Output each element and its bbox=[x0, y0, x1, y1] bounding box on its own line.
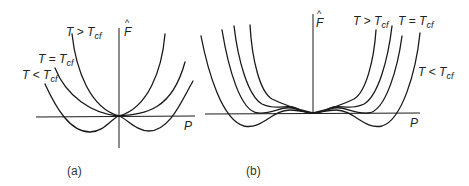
panel-a-plot bbox=[36, 28, 195, 148]
panel-b-caption: (b) bbox=[246, 164, 261, 178]
panel-b-plot bbox=[201, 14, 420, 127]
panel-a-label-t-below: T < Tcf bbox=[22, 69, 57, 81]
panel-a-curve-t-equal bbox=[55, 62, 185, 116]
panel-a-label-t-equal: T = Tcf bbox=[38, 53, 73, 65]
panel-b-label-t-below: T < Tcf bbox=[418, 66, 453, 78]
panel-b-p-axis-label: P bbox=[410, 117, 418, 129]
panel-a-label-t-above: T > Tcf bbox=[66, 26, 101, 38]
panel-a-f-axis-label: F bbox=[124, 26, 131, 38]
panel-a-p-axis-label: P bbox=[184, 120, 192, 132]
panel-b-f-axis-label: F bbox=[316, 17, 323, 29]
panel-b-label-t-equal: T = Tcf bbox=[398, 15, 433, 27]
panel-a-caption: (a) bbox=[67, 164, 82, 178]
panel-b-label-t-above: T > Tcf bbox=[353, 15, 388, 27]
